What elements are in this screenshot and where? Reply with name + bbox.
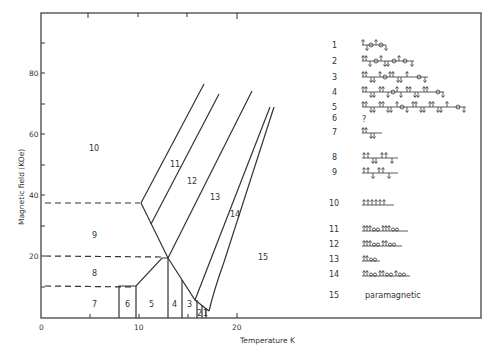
y-tick-20: 20 <box>29 252 39 261</box>
plot-frame <box>41 13 481 318</box>
svg-text:5: 5 <box>332 103 337 112</box>
legend-spin-4 <box>362 87 445 98</box>
legend-spin-1 <box>362 40 388 51</box>
svg-text:13: 13 <box>329 255 339 264</box>
legend-spin-5 <box>362 102 467 113</box>
legend-spin-3 <box>362 72 429 83</box>
svg-text:4: 4 <box>332 88 337 97</box>
legend-spin-6-unknown: ? <box>362 115 366 124</box>
phase-diagram: 20 40 60 80 0 10 20 Temperature K Magnet… <box>0 0 495 353</box>
legend-spin-2 <box>362 56 415 67</box>
x-tick-10: 10 <box>134 323 144 332</box>
svg-text:8: 8 <box>332 153 337 162</box>
region-13: 13 <box>210 193 220 202</box>
legend-spin-7 <box>362 128 383 139</box>
dashed-boundary-20 <box>45 256 162 257</box>
legend-spin-13 <box>362 256 380 262</box>
region-5: 5 <box>149 300 154 309</box>
svg-text:12: 12 <box>329 240 339 249</box>
legend-spin-9 <box>362 168 398 179</box>
phase-boundaries <box>119 84 274 318</box>
region-4: 4 <box>172 300 177 309</box>
region-2: 2 <box>197 309 202 318</box>
region-7: 7 <box>92 300 97 309</box>
region-11: 11 <box>170 160 180 169</box>
y-axis-label: Magnetic field (KOe) <box>17 149 26 225</box>
region-3: 3 <box>187 300 192 309</box>
legend-spin-11 <box>362 226 408 232</box>
svg-text:2: 2 <box>332 57 337 66</box>
legend-spin-10 <box>362 200 394 206</box>
svg-text:15: 15 <box>329 291 339 300</box>
x-tick-0: 0 <box>39 323 44 332</box>
legend-spin-8 <box>362 153 398 164</box>
legend-spin-14 <box>362 271 410 277</box>
region-6: 6 <box>125 300 130 309</box>
svg-text:14: 14 <box>329 270 339 279</box>
svg-text:6: 6 <box>332 114 337 123</box>
svg-text:11: 11 <box>329 225 339 234</box>
svg-text:10: 10 <box>329 199 339 208</box>
region-9: 9 <box>92 231 97 240</box>
legend-paramagnetic: paramagnetic <box>365 291 421 300</box>
y-tick-80: 80 <box>29 69 39 78</box>
region-8: 8 <box>92 269 97 278</box>
legend-spin-12 <box>362 241 402 247</box>
region-15: 15 <box>258 253 268 262</box>
region-12: 12 <box>187 177 197 186</box>
svg-text:1: 1 <box>332 41 337 50</box>
x-axis-ticks <box>90 313 237 318</box>
x-tick-20: 20 <box>232 323 242 332</box>
svg-text:7: 7 <box>332 128 337 137</box>
legend-numbers: 1 2 3 4 5 6 7 8 9 10 11 12 13 14 15 <box>329 41 339 300</box>
svg-text:3: 3 <box>332 73 337 82</box>
svg-text:9: 9 <box>332 168 337 177</box>
y-tick-40: 40 <box>29 191 39 200</box>
region-1: 1 <box>203 309 208 318</box>
region-10: 10 <box>89 144 99 153</box>
top-ticks <box>88 13 237 19</box>
region-14: 14 <box>230 210 240 219</box>
y-tick-60: 60 <box>29 130 39 139</box>
x-axis-label: Temperature K <box>239 336 296 345</box>
